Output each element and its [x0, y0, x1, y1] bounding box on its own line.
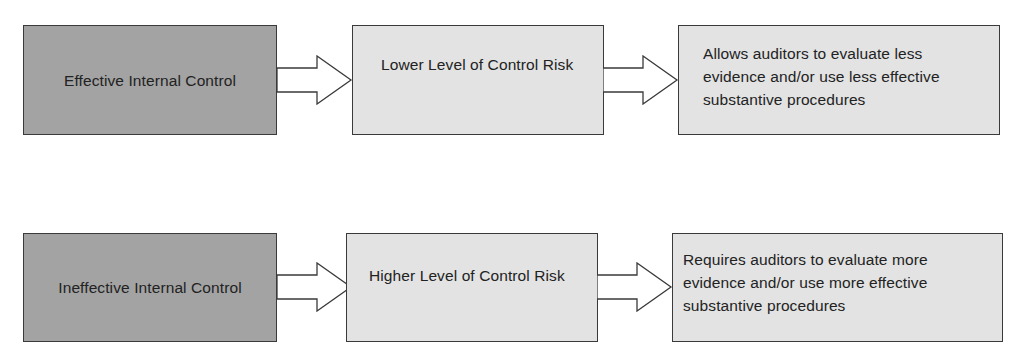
allows-less-evidence-box: Allows auditors to evaluate less evidenc… [678, 25, 1000, 135]
arrow-right-icon [603, 55, 679, 105]
box-label: Allows auditors to evaluate less evidenc… [679, 42, 996, 111]
ineffective-internal-control-box: Ineffective Internal Control [23, 233, 277, 342]
box-label: Requires auditors to evaluate more evide… [673, 248, 996, 317]
arrow-right-icon [277, 55, 353, 105]
arrow-right-icon [277, 262, 353, 312]
higher-control-risk-box: Higher Level of Control Risk [346, 233, 598, 342]
box-label: Effective Internal Control [64, 69, 236, 92]
box-label: Ineffective Internal Control [58, 276, 241, 299]
requires-more-evidence-box: Requires auditors to evaluate more evide… [672, 233, 1003, 342]
box-label: Lower Level of Control Risk [353, 53, 589, 76]
lower-control-risk-box: Lower Level of Control Risk [352, 25, 604, 135]
arrow-right-icon [597, 262, 673, 312]
effective-internal-control-box: Effective Internal Control [23, 25, 277, 135]
box-label: Higher Level of Control Risk [347, 264, 577, 287]
